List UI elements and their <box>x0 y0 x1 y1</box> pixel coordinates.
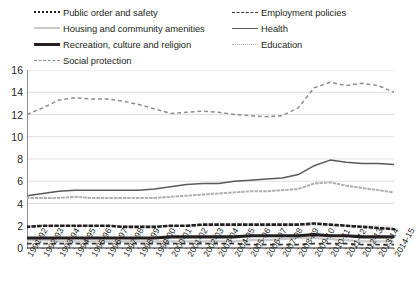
y-axis-tick-label: 4 <box>17 199 23 209</box>
y-axis-tick-label: 8 <box>17 154 23 164</box>
plot-canvas <box>27 70 400 250</box>
series-line <box>27 82 394 116</box>
legend-item-label: Housing and community amenities <box>63 24 205 34</box>
legend-item[interactable]: Public order and safety <box>34 6 158 19</box>
legend-swatch-icon <box>34 55 60 67</box>
series-line <box>27 160 394 196</box>
legend-item[interactable]: Housing and community amenities <box>34 22 205 35</box>
legend-swatch-icon <box>34 23 60 35</box>
y-axis-tick-label: 14 <box>11 87 23 97</box>
y-axis-tick-label: 10 <box>11 132 23 142</box>
plot-area: 0246810121416 1991-921992-931993-941994-… <box>0 70 402 303</box>
series-line <box>27 224 394 230</box>
legend-item[interactable]: Employment policies <box>232 6 346 19</box>
legend-item[interactable]: Health <box>232 22 288 35</box>
y-axis-tick-label: 12 <box>11 110 23 120</box>
legend-item-label: Health <box>261 24 288 34</box>
legend-item-label: Public order and safety <box>63 8 158 18</box>
legend-item[interactable]: Social protection <box>34 54 131 67</box>
legend-swatch-icon <box>34 39 60 51</box>
legend-swatch-icon <box>232 39 258 51</box>
y-axis-tick-label: 2 <box>17 221 23 231</box>
y-axis-tick-label: 0 <box>17 243 23 253</box>
legend-item-label: Education <box>261 40 302 50</box>
y-axis-tick-label: 16 <box>11 65 23 75</box>
chart-svg <box>27 70 400 249</box>
legend-item[interactable]: Education <box>232 38 302 51</box>
chart-legend: Public order and safetyHousing and commu… <box>0 6 402 70</box>
y-axis-labels: 0246810121416 <box>0 70 26 252</box>
legend-swatch-icon <box>34 7 60 19</box>
x-axis-labels: 1991-921992-931993-941994-951995-961996-… <box>27 250 402 303</box>
legend-item-label: Recreation, culture and religion <box>63 40 191 50</box>
y-axis-tick-label: 6 <box>17 176 23 186</box>
legend-item-label: Social protection <box>63 56 131 66</box>
legend-swatch-icon <box>232 23 258 35</box>
legend-swatch-icon <box>232 7 258 19</box>
legend-item-label: Employment policies <box>261 8 346 18</box>
legend-item[interactable]: Recreation, culture and religion <box>34 38 191 51</box>
